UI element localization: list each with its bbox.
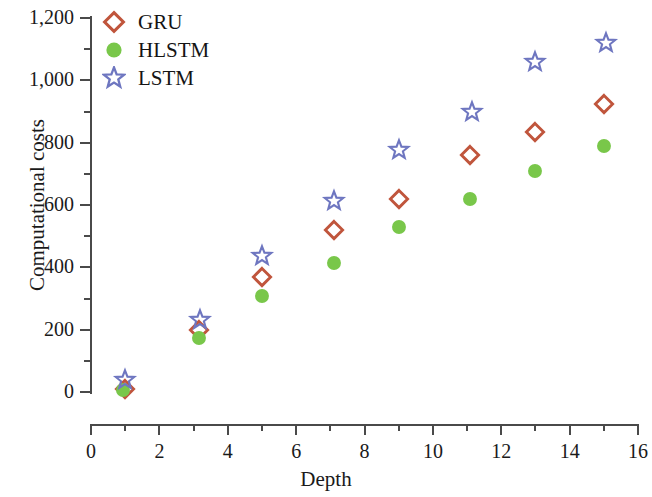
legend-marker-open-diamond-icon [100, 9, 128, 35]
legend-item-lstm[interactable]: LSTM [100, 64, 290, 92]
x-tick-label: 10 [411, 440, 455, 462]
x-tick-label: 16 [616, 440, 652, 462]
x-tick-major [90, 425, 92, 435]
data-point-gru [251, 266, 273, 288]
x-tick-minor [261, 425, 263, 431]
y-tick-label: 1,200 [29, 7, 74, 27]
x-tick-major [364, 425, 366, 435]
data-point-gru [188, 319, 210, 341]
data-point-lstm [114, 369, 136, 391]
y-tick-label: 0 [64, 381, 74, 401]
x-tick-major [637, 425, 639, 435]
x-tick-minor [124, 425, 126, 431]
legend-item-hlstm[interactable]: HLSTM [100, 36, 290, 64]
legend-marker-open-star-icon [100, 65, 128, 91]
data-point-lstm [524, 51, 546, 73]
data-point-hlstm [524, 160, 546, 182]
x-tick-major [295, 425, 297, 435]
x-tick-major [432, 425, 434, 435]
x-tick-major [227, 425, 229, 435]
x-tick-minor [603, 425, 605, 431]
legend-label: HLSTM [138, 38, 209, 62]
x-tick-major [500, 425, 502, 435]
y-tick-major [80, 329, 91, 331]
x-tick-major [158, 425, 160, 435]
x-tick-minor [466, 425, 468, 431]
x-tick-minor [193, 425, 195, 431]
x-tick-label: 8 [343, 440, 387, 462]
data-point-gru [114, 378, 136, 400]
data-point-lstm [595, 32, 617, 54]
x-tick-minor [329, 425, 331, 431]
y-tick-major [80, 391, 91, 393]
data-point-hlstm [459, 188, 481, 210]
y-tick-major [80, 17, 91, 19]
data-point-hlstm [251, 285, 273, 307]
x-tick-major [569, 425, 571, 435]
chart-legend: GRUHLSTMLSTM [100, 8, 290, 92]
y-tick-minor [84, 111, 91, 113]
scatter-chart: 02004006008001,0001,200 0246810121416 Co… [0, 0, 652, 497]
data-point-gru [524, 121, 546, 143]
data-point-lstm [388, 139, 410, 161]
data-point-gru [388, 188, 410, 210]
y-tick-minor [84, 173, 91, 175]
legend-label: GRU [138, 10, 182, 34]
x-axis-title: Depth [0, 467, 652, 491]
data-point-hlstm [112, 379, 134, 401]
x-tick-minor [534, 425, 536, 431]
x-tick-label: 6 [274, 440, 318, 462]
y-axis-title: Computational costs [25, 65, 49, 345]
legend-marker-filled-circle-icon [100, 37, 128, 63]
data-point-hlstm [593, 135, 615, 157]
y-tick-major [80, 142, 91, 144]
data-point-gru [323, 219, 345, 241]
legend-item-gru[interactable]: GRU [100, 8, 290, 36]
data-point-lstm [251, 245, 273, 267]
y-tick-major [80, 266, 91, 268]
y-tick-major [80, 204, 91, 206]
data-point-gru [593, 93, 615, 115]
x-tick-label: 12 [479, 440, 523, 462]
x-tick-label: 4 [206, 440, 250, 462]
x-tick-label: 2 [137, 440, 181, 462]
x-tick-minor [398, 425, 400, 431]
data-point-hlstm [323, 252, 345, 274]
legend-label: LSTM [138, 66, 194, 90]
x-tick-label: 0 [69, 440, 113, 462]
data-point-hlstm [388, 216, 410, 238]
y-tick-minor [84, 360, 91, 362]
y-tick-major [80, 79, 91, 81]
data-point-lstm [461, 101, 483, 123]
y-tick-minor [84, 48, 91, 50]
data-point-hlstm [188, 327, 210, 349]
data-point-lstm [189, 309, 211, 331]
y-tick-minor [84, 298, 91, 300]
data-point-gru [459, 144, 481, 166]
data-point-lstm [323, 190, 345, 212]
y-tick-minor [84, 235, 91, 237]
x-tick-label: 14 [548, 440, 592, 462]
